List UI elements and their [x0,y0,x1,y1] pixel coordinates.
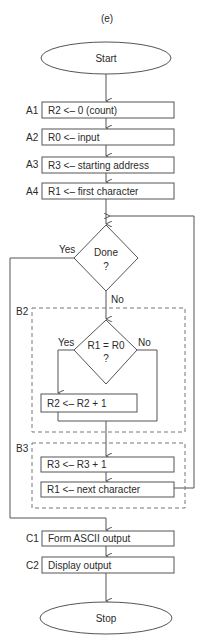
group-b3 [32,443,185,508]
step-id-a4: A4 [26,186,39,197]
step-r3-increment-text: R3 <– R3 + 1 [47,459,107,470]
step-r2-increment-text: R2 <– R2 + 1 [47,398,107,409]
svg-text:?: ? [103,353,109,364]
group-b3-label: B3 [16,443,29,454]
svg-text:Done: Done [94,247,118,258]
step-a3-text: R3 <– starting address [48,160,149,171]
done-no-label: No [111,294,124,305]
decision-r1-eq-r0: R1 = R0 ? [74,320,137,384]
step-next-char-text: R1 <– next character [47,484,141,495]
step-id-a1: A1 [26,105,39,116]
step-c1-text: Form ASCII output [48,533,130,544]
group-b2-label: B2 [16,306,29,317]
svg-text:R1 = R0: R1 = R0 [88,340,125,351]
svg-text:?: ? [103,261,109,272]
decision-done: Done ? [74,225,138,291]
done-yes-label: Yes [59,244,75,255]
start-label: Start [95,53,116,64]
step-c2-text: Display output [48,560,112,571]
r1r0-no-label: No [138,337,151,348]
stop-terminal: Stop [40,602,172,634]
step-a4-text: R1 <– first character [48,186,139,197]
step-id-c2: C2 [26,560,39,571]
figure-label: (e) [101,13,113,24]
start-terminal: Start [41,42,171,74]
flowchart: (e) Start A1 R2 <– 0 (count) A2 R0 <– in… [0,0,203,643]
step-id-a2: A2 [26,132,39,143]
r1r0-yes-label: Yes [58,337,74,348]
step-id-c1: C1 [26,533,39,544]
step-a2-text: R0 <– input [48,132,100,143]
step-a1-text: R2 <– 0 (count) [48,105,117,116]
step-id-a3: A3 [26,159,39,170]
stop-label: Stop [96,613,117,624]
